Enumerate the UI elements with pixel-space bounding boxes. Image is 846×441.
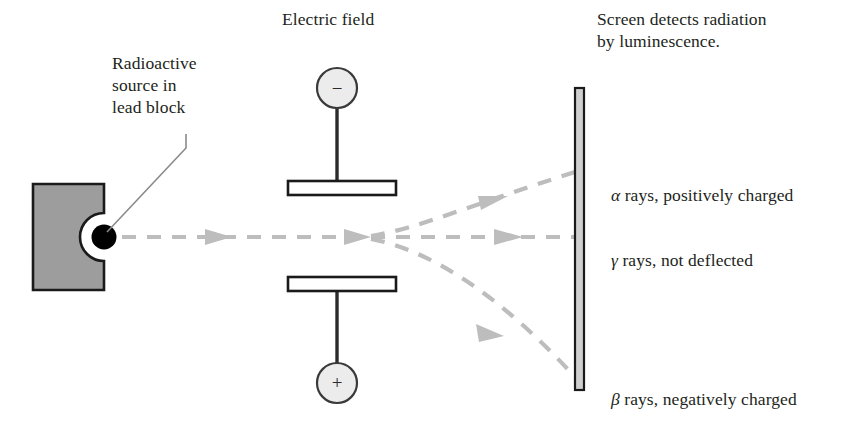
- alpha-ray-label: α rays, positively charged: [593, 162, 793, 228]
- beta-ray-label: β rays, negatively charged: [593, 366, 797, 432]
- alpha-ray-text: rays, positively charged: [620, 185, 793, 205]
- gamma-symbol: γ: [611, 250, 618, 270]
- gamma-ray-arrowhead: [494, 229, 523, 245]
- alpha-ray-path: [371, 172, 575, 236]
- incident-beam-arrowhead: [205, 229, 232, 245]
- beta-ray-path: [371, 239, 575, 377]
- positive-plate: [288, 277, 396, 291]
- alpha-symbol: α: [611, 185, 620, 205]
- negative-sign-label: −: [327, 78, 347, 100]
- radioactivity-deflection-diagram: Radioactive source in lead block Electri…: [0, 0, 846, 441]
- beta-ray-arrowhead: [476, 324, 504, 342]
- electric-field-title: Electric field: [282, 8, 374, 30]
- negative-plate: [288, 181, 396, 195]
- detection-screen: [575, 88, 584, 390]
- source-leader-line: [107, 134, 186, 232]
- beta-ray-text: rays, negatively charged: [620, 389, 797, 409]
- gamma-ray-label: γ rays, not deflected: [593, 227, 753, 293]
- beta-symbol: β: [611, 389, 620, 409]
- gamma-ray-text: rays, not deflected: [618, 250, 753, 270]
- incident-beam: [122, 229, 371, 245]
- incident-beam-arrowhead-2: [344, 229, 371, 245]
- positive-sign-label: +: [327, 372, 347, 394]
- radioactive-source-label: Radioactive source in lead block: [112, 52, 197, 118]
- radioactive-source-dot: [92, 225, 117, 250]
- alpha-ray-arrowhead: [478, 196, 508, 210]
- screen-description-label: Screen detects radiation by luminescence…: [597, 8, 767, 52]
- lead-block-group: [33, 184, 117, 290]
